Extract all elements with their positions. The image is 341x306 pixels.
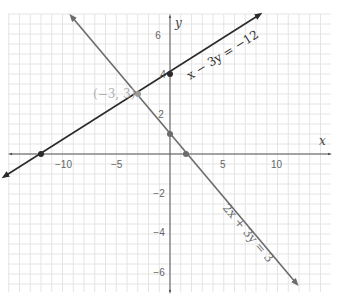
point-1.5-0: [183, 151, 189, 157]
point-0-1: [167, 131, 173, 137]
x-tick-label: 5: [220, 159, 226, 170]
point-neg12-0: [38, 151, 44, 157]
x-tick-label: 10: [271, 159, 283, 170]
intersection-label: (−3, 3): [93, 87, 135, 101]
x-tick-label: −5: [111, 159, 123, 170]
line2-equation-label: 2x + 3y = 3: [220, 201, 277, 265]
y-tick-label: −4: [153, 227, 165, 238]
y-axis-label: y: [174, 16, 182, 30]
y-tick-label: −2: [153, 188, 165, 199]
coordinate-plane: x y −10 −5 5 10 6 4 2 −2 −4 −6 (−3, 3) x…: [0, 0, 341, 306]
point-0-4: [167, 71, 173, 77]
intersection-point: [135, 91, 141, 97]
y-tick-label: 2: [158, 109, 164, 120]
y-tick-label: 6: [155, 30, 161, 41]
y-tick-label: −6: [153, 267, 165, 278]
x-axis-label: x: [319, 134, 326, 148]
x-tick-label: −10: [55, 159, 72, 170]
